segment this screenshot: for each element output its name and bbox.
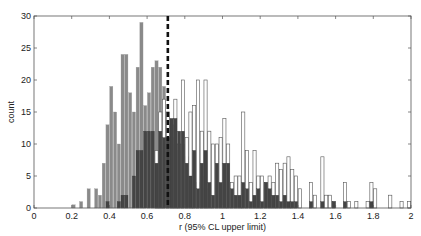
bar-dark-gray-5 xyxy=(136,150,139,208)
y-tick-label: 0 xyxy=(26,203,31,213)
bar-white-outline-43 xyxy=(328,195,331,208)
bar-dark-gray-0 xyxy=(106,202,109,208)
bar-dark-gray-42 xyxy=(276,195,279,208)
bar-dark-gray-28 xyxy=(223,163,226,208)
bar-dark-gray-14 xyxy=(170,118,173,208)
bar-dark-gray-36 xyxy=(253,195,256,208)
bar-dark-gray-41 xyxy=(272,195,275,208)
bar-white-outline-40 xyxy=(313,195,316,208)
bar-dark-gray-22 xyxy=(200,163,203,208)
bar-dark-gray-26 xyxy=(215,163,218,208)
bar-light-gray-9 xyxy=(117,144,120,208)
bar-light-gray-1 xyxy=(80,202,83,208)
bar-dark-gray-9 xyxy=(151,131,154,208)
x-tick-label: 1.2 xyxy=(254,211,267,221)
bar-light-gray-4 xyxy=(98,195,101,208)
bar-dark-gray-11 xyxy=(159,131,162,208)
bar-dark-gray-17 xyxy=(181,131,184,208)
y-tick-label: 30 xyxy=(21,11,31,21)
bar-dark-gray-6 xyxy=(140,150,143,208)
bar-white-outline-38 xyxy=(298,189,301,208)
x-tick-label: 1.4 xyxy=(292,211,305,221)
bar-dark-gray-4 xyxy=(132,176,135,208)
bar-dark-gray-32 xyxy=(238,195,241,208)
bar-dark-gray-19 xyxy=(189,176,192,208)
bar-dark-gray-12 xyxy=(162,138,165,208)
bar-dark-gray-24 xyxy=(208,182,211,208)
bar-light-gray-12 xyxy=(129,93,132,208)
bar-white-outline-47 xyxy=(355,202,358,208)
bar-light-gray-0 xyxy=(72,205,75,208)
bar-dark-gray-48 xyxy=(310,202,313,208)
bar-light-gray-10 xyxy=(121,54,124,208)
x-tick-label: 0.4 xyxy=(103,211,116,221)
x-tick-label: 1.6 xyxy=(329,211,342,221)
y-tick-label: 15 xyxy=(21,107,31,117)
x-tick-label: 0.2 xyxy=(65,211,78,221)
bar-white-outline-48 xyxy=(366,202,369,208)
x-tick-label: 2 xyxy=(408,211,413,221)
bar-dark-gray-37 xyxy=(257,189,260,208)
bar-dark-gray-45 xyxy=(287,202,290,208)
bar-dark-gray-43 xyxy=(279,202,282,208)
bar-dark-gray-3 xyxy=(125,195,128,208)
y-tick-label: 20 xyxy=(21,75,31,85)
bar-white-outline-46 xyxy=(347,202,350,208)
bar-dark-gray-20 xyxy=(193,150,196,208)
bar-dark-gray-34 xyxy=(245,189,248,208)
bar-dark-gray-8 xyxy=(147,131,150,208)
bar-light-gray-7 xyxy=(110,86,113,208)
bar-dark-gray-49 xyxy=(321,202,324,208)
bar-dark-gray-31 xyxy=(234,195,237,208)
bar-white-outline-41 xyxy=(321,157,324,208)
bar-dark-gray-16 xyxy=(178,131,181,208)
bar-dark-gray-29 xyxy=(227,163,230,208)
y-tick-label: 5 xyxy=(26,171,31,181)
bars-layer xyxy=(72,22,411,208)
y-tick-label: 25 xyxy=(21,43,31,53)
bar-light-gray-5 xyxy=(102,163,105,208)
bar-dark-gray-10 xyxy=(155,163,158,208)
bar-light-gray-11 xyxy=(125,54,128,208)
histogram-chart: 00.20.40.60.811.21.41.61.82051015202530 … xyxy=(0,0,421,236)
bar-dark-gray-38 xyxy=(261,202,264,208)
bar-dark-gray-47 xyxy=(294,202,297,208)
bar-dark-gray-35 xyxy=(249,202,252,208)
x-axis-title: r (95% CL upper limit) xyxy=(179,222,266,232)
bar-dark-gray-27 xyxy=(219,182,222,208)
bar-dark-gray-46 xyxy=(291,202,294,208)
bar-dark-gray-7 xyxy=(144,131,147,208)
bar-light-gray-6 xyxy=(106,125,109,208)
bar-dark-gray-50 xyxy=(332,202,335,208)
bar-dark-gray-25 xyxy=(211,195,214,208)
bar-white-outline-52 xyxy=(400,202,403,208)
bar-dark-gray-2 xyxy=(121,195,124,208)
bar-dark-gray-40 xyxy=(268,189,271,208)
bar-dark-gray-21 xyxy=(196,189,199,208)
bar-light-gray-2 xyxy=(87,189,90,208)
bar-light-gray-3 xyxy=(95,189,98,208)
x-tick-label: 0.6 xyxy=(141,211,154,221)
bar-dark-gray-39 xyxy=(264,182,267,208)
bar-dark-gray-44 xyxy=(283,195,286,208)
bar-dark-gray-23 xyxy=(204,150,207,208)
bar-dark-gray-52 xyxy=(370,202,373,208)
bar-dark-gray-51 xyxy=(343,202,346,208)
x-tick-label: 1 xyxy=(220,211,225,221)
bar-white-outline-35 xyxy=(287,157,290,208)
bar-white-outline-53 xyxy=(408,202,411,208)
y-axis-title: count xyxy=(6,100,16,123)
bar-dark-gray-1 xyxy=(117,202,120,208)
x-tick-label: 1.8 xyxy=(367,211,380,221)
bar-white-outline-42 xyxy=(325,195,328,208)
x-tick-label: 0.8 xyxy=(179,211,192,221)
bar-white-outline-51 xyxy=(389,195,392,208)
y-tick-label: 10 xyxy=(21,139,31,149)
bar-light-gray-8 xyxy=(113,112,116,208)
x-tick-label: 0 xyxy=(31,211,36,221)
bar-dark-gray-33 xyxy=(242,182,245,208)
bar-white-outline-50 xyxy=(374,189,377,208)
bar-dark-gray-30 xyxy=(230,189,233,208)
bar-dark-gray-15 xyxy=(174,118,177,208)
bar-dark-gray-18 xyxy=(185,163,188,208)
